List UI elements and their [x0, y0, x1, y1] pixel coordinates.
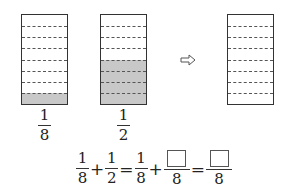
box-row — [228, 82, 273, 93]
box-row — [101, 48, 146, 59]
denominator: 8 — [78, 171, 88, 186]
fraction-box-one-eighth — [21, 14, 68, 105]
numerator: 1 — [107, 151, 117, 166]
box-row — [22, 71, 67, 82]
box-row — [228, 60, 273, 71]
label-one-half: 1 2 — [117, 108, 130, 143]
box-row — [228, 37, 273, 48]
box-row — [101, 93, 146, 104]
denominator: 2 — [119, 128, 129, 143]
box-row — [22, 15, 67, 26]
plus-sign: + — [89, 159, 105, 179]
numerator: 1 — [40, 108, 50, 123]
box-row — [101, 71, 146, 82]
numerator: 1 — [136, 151, 146, 166]
denominator: 8 — [214, 172, 224, 187]
box-row — [228, 15, 273, 26]
box-row — [22, 82, 67, 93]
fraction-box-one-half — [100, 14, 147, 105]
answer-blank-box[interactable] — [210, 150, 229, 167]
box-row — [228, 71, 273, 82]
equals-sign: = — [118, 159, 134, 179]
box-row — [101, 82, 146, 93]
box-row — [101, 26, 146, 37]
box-row — [228, 48, 273, 59]
fraction-1-8-b: 1 8 — [135, 151, 148, 186]
box-row — [228, 93, 273, 104]
numerator: 1 — [119, 108, 129, 123]
fraction-blank-over-8-result: 8 — [206, 150, 232, 187]
numerator: 1 — [78, 151, 88, 166]
box-row — [22, 37, 67, 48]
box-row — [22, 93, 67, 104]
right-arrow-icon — [180, 54, 196, 66]
fraction-blank-over-8: 8 — [164, 150, 190, 187]
fraction-box-answer — [227, 14, 274, 105]
equals-sign: = — [190, 159, 206, 179]
denominator: 2 — [107, 171, 117, 186]
box-row — [22, 26, 67, 37]
fraction-1-2: 1 2 — [105, 151, 118, 186]
fraction-1-8: 1 8 — [76, 151, 89, 186]
box-row — [101, 60, 146, 71]
label-one-eighth: 1 8 — [38, 108, 51, 143]
denominator: 8 — [40, 128, 50, 143]
denominator: 8 — [172, 172, 182, 187]
plus-sign: + — [148, 159, 164, 179]
denominator: 8 — [136, 171, 146, 186]
box-row — [101, 37, 146, 48]
box-row — [22, 48, 67, 59]
box-row — [22, 60, 67, 71]
box-row — [228, 26, 273, 37]
box-row — [101, 15, 146, 26]
equation: 1 8 + 1 2 = 1 8 + 8 = 8 — [76, 150, 232, 187]
answer-blank-box[interactable] — [167, 150, 186, 167]
